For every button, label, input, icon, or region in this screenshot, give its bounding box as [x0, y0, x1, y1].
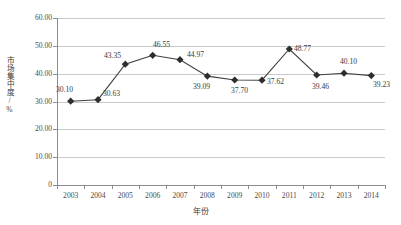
data-label-2005: 43.35	[104, 52, 121, 60]
data-label-2014: 39.23	[373, 81, 390, 89]
data-point-2003	[67, 98, 74, 105]
data-point-2013	[340, 70, 347, 77]
data-label-2010: 37.62	[267, 78, 284, 86]
data-point-2009	[231, 76, 238, 83]
series-layer	[0, 0, 401, 225]
data-label-2011: 48.77	[294, 45, 311, 53]
data-point-2006	[149, 52, 156, 59]
data-label-2008: 39.09	[193, 83, 210, 91]
data-label-2013: 40.10	[340, 58, 357, 66]
data-point-2007	[176, 56, 183, 63]
data-label-2003: 30.10	[56, 86, 73, 94]
data-point-2014	[368, 72, 375, 79]
data-point-2008	[204, 73, 211, 80]
line-chart: 60.00 50.00 40.00 30.00 20.00 10.00 0 20…	[0, 0, 401, 225]
data-label-2006: 46.55	[153, 41, 170, 49]
data-label-2009: 37.70	[231, 87, 248, 95]
data-label-2004: 30.63	[103, 90, 120, 98]
data-label-2012: 39.46	[312, 83, 329, 91]
data-label-2007: 44.97	[187, 51, 204, 59]
